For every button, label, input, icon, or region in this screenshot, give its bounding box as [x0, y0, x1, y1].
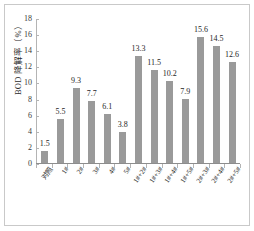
bar: [213, 46, 220, 163]
bar: [57, 119, 64, 163]
x-axis-labels: 对照1#2#3#4#5#1#+2#1#+3#1#+4#1#+5#2#+3#2#+…: [36, 166, 240, 212]
bar-slot: 6.1: [99, 19, 115, 163]
bar: [197, 37, 204, 163]
bar: [119, 132, 126, 163]
bar-value-label: 3.8: [118, 121, 128, 129]
bar: [229, 62, 236, 164]
bar-value-label: 7.9: [180, 88, 190, 96]
bar: [104, 114, 111, 163]
bar: [88, 101, 95, 163]
bar-slot: 7.7: [84, 19, 100, 163]
bar-value-label: 13.3: [131, 45, 145, 53]
bar-slot: 10.2: [162, 19, 178, 163]
plot-inner: 181614121086420 1.55.59.37.76.13.813.311…: [36, 19, 240, 164]
y-tick-label: 6: [10, 112, 32, 120]
bar: [151, 70, 158, 163]
bar-value-label: 5.5: [55, 108, 65, 116]
y-tick-label: 4: [10, 128, 32, 136]
bar: [41, 151, 48, 163]
y-tick-label: 0: [10, 160, 32, 168]
y-tick-label: 14: [10, 47, 32, 55]
bod-degradation-bar-chart: BOD 降解率（%） 181614121086420 1.55.59.37.76…: [0, 0, 254, 231]
bar-value-label: 14.5: [210, 35, 224, 43]
bar-series: 1.55.59.37.76.13.813.311.510.27.915.614.…: [37, 19, 240, 163]
bar-value-label: 6.1: [102, 103, 112, 111]
bar-value-label: 12.6: [225, 51, 239, 59]
y-tick-label: 8: [10, 96, 32, 104]
bar-slot: 11.5: [146, 19, 162, 163]
plot-area: 181614121086420 1.55.59.37.76.13.813.311…: [36, 19, 240, 164]
bar-value-label: 7.7: [87, 90, 97, 98]
bar-slot: 7.9: [177, 19, 193, 163]
y-tick-label: 18: [10, 15, 32, 23]
bar: [182, 99, 189, 163]
bar-value-label: 15.6: [194, 26, 208, 34]
bar-value-label: 9.3: [71, 77, 81, 85]
bar-slot: 3.8: [115, 19, 131, 163]
bar-slot: 15.6: [193, 19, 209, 163]
bar-slot: 1.5: [37, 19, 53, 163]
y-tick-label: 16: [10, 31, 32, 39]
bar: [73, 88, 80, 163]
bar-value-label: 10.2: [163, 70, 177, 78]
bar: [135, 56, 142, 163]
y-tick-label: 10: [10, 79, 32, 87]
bar-value-label: 1.5: [40, 140, 50, 148]
bar-slot: 9.3: [68, 19, 84, 163]
bar-slot: 5.5: [53, 19, 69, 163]
bar: [166, 81, 173, 163]
y-tick-label: 12: [10, 63, 32, 71]
y-tick-label: 2: [10, 144, 32, 152]
bar-slot: 14.5: [209, 19, 225, 163]
bar-slot: 13.3: [131, 19, 147, 163]
bar-value-label: 11.5: [147, 59, 161, 67]
bar-slot: 12.6: [224, 19, 240, 163]
